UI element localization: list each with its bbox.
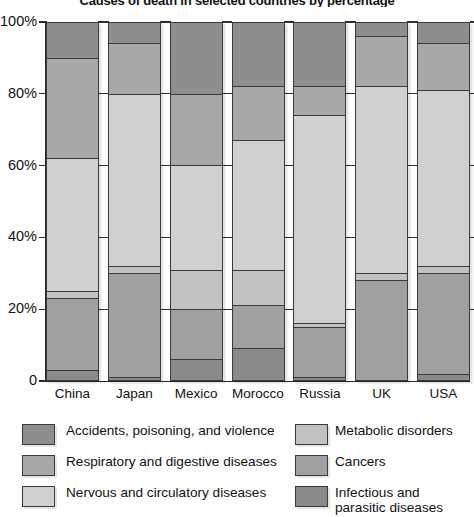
bar-segment: [171, 22, 222, 94]
bar-segment: [47, 298, 98, 370]
legend-swatch-infectious: [295, 486, 328, 507]
bar-segment: [171, 94, 222, 166]
gridline: [470, 165, 474, 166]
legend-item[interactable]: Infectious and parasitic diseases: [295, 482, 474, 513]
bar-segment: [294, 22, 345, 86]
legend-swatch-metabolic: [295, 424, 328, 445]
bar-segment: [356, 273, 407, 280]
y-tick-0: [39, 380, 46, 381]
bar-segment: [109, 22, 160, 43]
x-axis-line: [45, 381, 470, 382]
bar-japan[interactable]: [108, 22, 161, 381]
legend-item[interactable]: Nervous and circulatory diseases: [22, 482, 292, 513]
bar-segment: [233, 22, 284, 86]
legend-label: Nervous and circulatory diseases: [66, 485, 266, 500]
bar-segment: [233, 270, 284, 306]
bar-segment: [233, 140, 284, 269]
gridline: [470, 309, 474, 310]
legend-item[interactable]: Accidents, poisoning, and violence: [22, 420, 292, 451]
y-axis-label: 20%: [0, 300, 37, 316]
bar-usa[interactable]: [417, 22, 470, 381]
bar-segment: [47, 58, 98, 159]
bar-segment: [418, 90, 469, 266]
bar-segment: [233, 86, 284, 140]
bar-segment: [233, 305, 284, 348]
bar-segment: [294, 115, 345, 323]
legend-column-left: Accidents, poisoning, and violenceRespir…: [22, 420, 292, 513]
stacked-bar-chart: 020%40%60%80%100% ChinaJapanMexicoMorocc…: [0, 0, 474, 400]
bar-segment: [418, 374, 469, 381]
bar-russia[interactable]: [293, 22, 346, 381]
bar-segment: [356, 36, 407, 86]
y-axis-label: 80%: [0, 85, 37, 101]
bar-mexico[interactable]: [170, 22, 223, 381]
bar-segment: [171, 270, 222, 309]
bar-segment: [418, 266, 469, 273]
bar-segment: [294, 327, 345, 377]
bar-segment: [171, 359, 222, 381]
bar-segment: [47, 22, 98, 58]
legend-label: Infectious and parasitic diseases: [335, 485, 443, 515]
bar-morocco[interactable]: [232, 22, 285, 381]
bar-segment: [356, 22, 407, 36]
bar-segment: [109, 377, 160, 381]
bar-segment: [418, 43, 469, 90]
bar-segment: [294, 377, 345, 381]
legend-swatch-cancers: [295, 455, 328, 476]
legend-column-right: Metabolic disordersCancersInfectious and…: [295, 420, 474, 513]
bar-china[interactable]: [46, 22, 99, 381]
legend-swatch-respiratory: [22, 455, 55, 476]
y-axis-label: 60%: [0, 157, 37, 173]
bar-segment: [109, 273, 160, 377]
y-axis-label: 100%: [0, 13, 37, 29]
legend-label: Metabolic disorders: [335, 423, 453, 438]
y-axis-label: 40%: [0, 228, 37, 244]
bar-segment: [418, 273, 469, 374]
bar-segment: [109, 94, 160, 266]
legend: Accidents, poisoning, and violenceRespir…: [0, 420, 474, 517]
y-axis-label: 0: [0, 372, 37, 388]
gridline: [470, 93, 474, 94]
bar-segment: [418, 22, 469, 43]
bar-segment: [233, 348, 284, 380]
gridline: [470, 21, 474, 22]
bar-segment: [47, 291, 98, 298]
bar-segment: [171, 309, 222, 359]
bar-segment: [109, 43, 160, 93]
bar-segment: [109, 266, 160, 273]
legend-item[interactable]: Respiratory and digestive diseases: [22, 451, 292, 482]
legend-label: Respiratory and digestive diseases: [66, 454, 277, 469]
bar-segment: [356, 86, 407, 273]
bar-uk[interactable]: [355, 22, 408, 381]
legend-label: Cancers: [335, 454, 386, 469]
legend-label: Accidents, poisoning, and violence: [66, 423, 275, 438]
bar-segment: [294, 86, 345, 115]
legend-swatch-nervous: [22, 486, 55, 507]
bar-segment: [47, 158, 98, 291]
legend-swatch-accidents: [22, 424, 55, 445]
bar-segment: [47, 370, 98, 381]
gridline: [470, 237, 474, 238]
bar-segment: [171, 165, 222, 269]
bar-segment: [356, 280, 407, 381]
legend-item[interactable]: Cancers: [295, 451, 474, 482]
legend-item[interactable]: Metabolic disorders: [295, 420, 474, 451]
x-axis-label-usa: USA: [407, 386, 474, 401]
